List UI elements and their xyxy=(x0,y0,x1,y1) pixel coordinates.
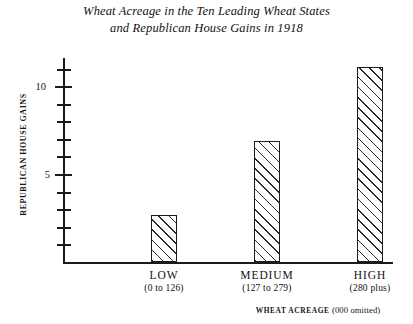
y-tick-5 xyxy=(55,174,72,176)
y-tick-1 xyxy=(57,244,71,246)
y-tick-3 xyxy=(57,209,71,211)
bar-medium[interactable] xyxy=(254,141,280,262)
y-tick-10 xyxy=(55,86,72,88)
bar-low[interactable] xyxy=(151,215,177,262)
category-label-medium: MEDIUM (127 to 279) xyxy=(207,268,327,295)
y-tick-2 xyxy=(57,227,71,229)
x-axis-caption: WHEAT ACREAGE (000 omitted) xyxy=(228,305,408,315)
category-name-medium: MEDIUM xyxy=(207,268,327,282)
y-tick-7 xyxy=(57,139,71,141)
x-axis-caption-paren: (000 omitted) xyxy=(332,305,380,315)
y-axis-title: REPUBLICAN HOUSE GAINS xyxy=(19,85,28,225)
y-axis-line xyxy=(63,58,65,264)
y-tick-9 xyxy=(57,104,71,106)
category-label-high: HIGH (280 plus) xyxy=(310,268,413,295)
y-tick-8 xyxy=(57,121,71,123)
category-range-high: (280 plus) xyxy=(310,282,413,295)
category-name-low: LOW xyxy=(104,268,224,282)
y-tick-11 xyxy=(57,69,71,71)
x-axis-caption-main: WHEAT ACREAGE xyxy=(256,306,330,315)
y-tick-label-10: 10 xyxy=(24,82,46,92)
category-range-low: (0 to 126) xyxy=(104,282,224,295)
category-label-low: LOW (0 to 126) xyxy=(104,268,224,295)
bar-high[interactable] xyxy=(357,67,383,262)
y-tick-6 xyxy=(57,156,71,158)
x-axis-line xyxy=(63,262,393,264)
category-range-medium: (127 to 279) xyxy=(207,282,327,295)
plot-area: REPUBLICAN HOUSE GAINS 5 10 LOW (0 to 12… xyxy=(0,0,413,324)
category-name-high: HIGH xyxy=(310,268,413,282)
y-tick-label-5: 5 xyxy=(28,170,50,180)
y-tick-4 xyxy=(57,192,71,194)
